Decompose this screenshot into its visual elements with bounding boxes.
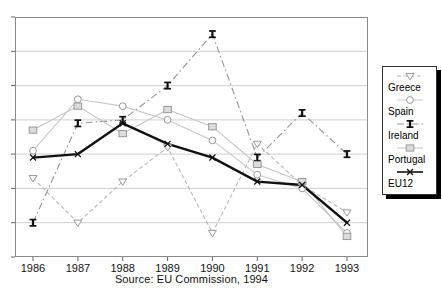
legend-label: EU12 [383, 177, 436, 190]
legend-label: Portugal [383, 153, 436, 166]
x-cross-icon [393, 167, 427, 177]
chart-legend: GreeceSpainIrelandPortugalEU12 [382, 66, 437, 195]
square-icon [393, 143, 427, 153]
axis-ticks [11, 17, 347, 261]
plot-border [16, 18, 368, 257]
triangle-down-icon [393, 71, 427, 81]
chart-figure: 19861987198819891990199119921993 GreeceS… [0, 0, 442, 291]
legend-item-ireland: Ireland [383, 119, 436, 142]
legend-label: Spain [383, 105, 436, 118]
series-line-ireland [33, 34, 347, 223]
legend-label: Ireland [383, 129, 436, 142]
series-line-eu12 [33, 123, 347, 222]
legend-item-eu12: EU12 [383, 167, 436, 190]
plot-area: 19861987198819891990199119921993 [0, 0, 442, 291]
legend-label: Greece [383, 81, 436, 94]
legend-item-greece: Greece [383, 71, 436, 94]
legend-item-spain: Spain [383, 95, 436, 118]
circle-icon [393, 95, 427, 105]
legend-item-portugal: Portugal [383, 143, 436, 166]
bowtie-icon [393, 119, 427, 129]
x-cross-markers-eu12 [30, 120, 350, 225]
source-caption: Source: EU Commission, 1994 [15, 273, 368, 285]
